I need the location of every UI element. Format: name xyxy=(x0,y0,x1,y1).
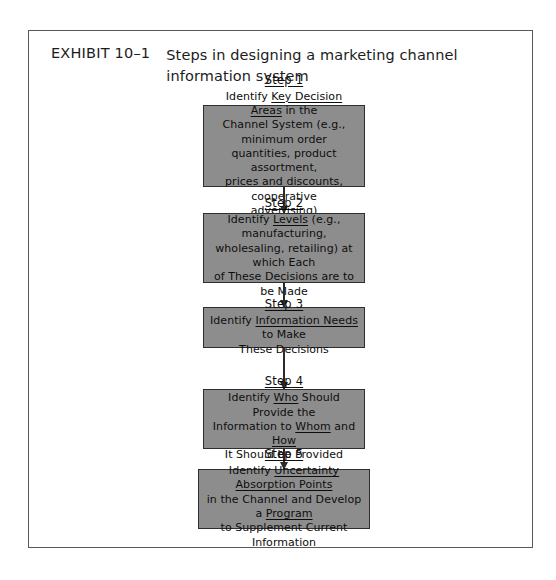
flowchart: Step 1 Identify Key Decision Areas in th… xyxy=(29,31,534,549)
flow-step-body: Identify Uncertainty Absorption Pointsin… xyxy=(204,464,364,550)
flow-step-box: Step 2 Identify Levels (e.g., manufactur… xyxy=(203,213,365,283)
flow-step-box: Step 1 Identify Key Decision Areas in th… xyxy=(203,105,365,187)
flow-step-title: Step 2 xyxy=(265,196,303,210)
flow-step-box: Step 4 Identify Who Should Provide theIn… xyxy=(203,389,365,449)
flow-step-box: Step 3 Identify Information Needs to Mak… xyxy=(203,307,365,348)
flow-step-title: Step 5 xyxy=(265,447,303,461)
exhibit-frame: EXHIBIT 10–1 Steps in designing a market… xyxy=(28,30,533,548)
flow-step-title: Step 3 xyxy=(265,297,303,311)
flow-step-box: Step 5 Identify Uncertainty Absorption P… xyxy=(198,469,370,529)
flow-step-title: Step 4 xyxy=(265,374,303,388)
flow-step-title: Step 1 xyxy=(265,73,303,87)
